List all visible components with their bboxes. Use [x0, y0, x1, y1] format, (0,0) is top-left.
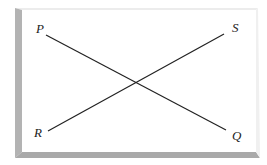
point-label-r: R: [33, 125, 42, 140]
point-label-s: S: [232, 20, 239, 35]
frame-bottom-bevel: [15, 152, 260, 158]
diagram-canvas: P Q R S: [0, 0, 267, 165]
frame-top-bevel: [15, 8, 258, 10]
point-label-q: Q: [232, 128, 242, 143]
frame-right-bevel: [256, 8, 260, 158]
point-label-p: P: [35, 21, 44, 36]
frame-left-bevel: [15, 8, 22, 158]
